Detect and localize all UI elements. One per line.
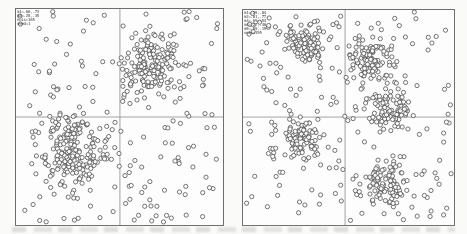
scatter-point (300, 150, 304, 154)
scatter-point (389, 184, 393, 188)
scatter-point (128, 82, 132, 86)
scatter-point (32, 62, 36, 66)
scatter-point (298, 115, 302, 119)
scatter-point (147, 72, 151, 76)
scatter-point (385, 81, 389, 85)
scatter-point (113, 146, 117, 150)
scatter-point (201, 191, 205, 195)
figure-canvas: m1=.66,.73m2=.28,.35nois=165seed=1 m1=.2… (0, 0, 467, 234)
scatter-point (171, 55, 175, 59)
scatter-point (72, 132, 76, 136)
scatter-point (335, 21, 339, 25)
scatter-point (33, 143, 37, 147)
scatter-point (128, 141, 132, 145)
scatter-point (113, 120, 117, 124)
scatter-point (371, 74, 375, 78)
scatter-point (258, 64, 262, 68)
scatter-point (284, 33, 288, 37)
scatter-point (302, 157, 306, 161)
scatter-point (139, 38, 143, 42)
scatter-point (331, 95, 335, 99)
scatter-point (129, 75, 133, 79)
scatter-point (215, 26, 219, 30)
scatter-point (383, 105, 387, 109)
scatter-point (58, 113, 62, 117)
scatter-point (87, 172, 91, 176)
scatter-point (153, 33, 157, 37)
scatter-point (393, 185, 397, 189)
scatter-point (379, 28, 383, 32)
scatter-point (245, 201, 249, 205)
scatter-point (62, 142, 66, 146)
scatter-point (172, 49, 176, 53)
scatter-point (372, 145, 376, 149)
scatter-point (210, 113, 214, 117)
scatter-point (351, 55, 355, 59)
scatter-point (305, 30, 309, 34)
scatter-point (289, 30, 293, 34)
scatter-point (33, 129, 37, 133)
scatter-point (177, 162, 181, 166)
scatter-point (142, 135, 146, 139)
scatter-point (295, 142, 299, 146)
scatter-point (435, 176, 439, 180)
scatter-point (404, 80, 408, 84)
scatter-point (103, 139, 107, 143)
scatter-point (388, 109, 392, 113)
scatter-point (68, 42, 72, 46)
scatter-point (274, 101, 278, 105)
scatter-point (266, 151, 270, 155)
scatter-point (124, 201, 128, 205)
scatter-point (433, 171, 437, 175)
scatter-point (49, 135, 53, 139)
scatter-point (155, 204, 159, 208)
scatter-point (141, 79, 145, 83)
scatter-point (371, 202, 375, 206)
scatter-point (389, 179, 393, 183)
scatter-point (357, 190, 361, 194)
scatter-point (410, 42, 414, 46)
scatter-point (71, 154, 75, 158)
scatter-point (38, 111, 42, 115)
scatter-point (293, 129, 297, 133)
scatter-point (391, 117, 395, 121)
scatter-point (415, 84, 419, 88)
scatter-point (384, 87, 388, 91)
scatter-point (380, 168, 384, 172)
scatter-point (303, 203, 307, 207)
scatter-point (18, 14, 22, 18)
scatter-point (429, 209, 433, 213)
scatter-point (396, 87, 400, 91)
scatter-point (113, 185, 117, 189)
scatter-point (305, 53, 309, 57)
scatter-point (178, 87, 182, 91)
scatter-point (377, 115, 381, 119)
scatter-point (74, 171, 78, 175)
scatter-point (288, 137, 292, 141)
scatter-point (70, 127, 74, 131)
scatter-point (316, 41, 320, 45)
scatter-point (358, 182, 362, 186)
left-plot-svg (15, 8, 224, 226)
scatter-point (157, 92, 161, 96)
scatter-point (376, 21, 380, 25)
scatter-point (30, 162, 34, 166)
scatter-point (59, 136, 63, 140)
scatter-point (307, 57, 311, 61)
scatter-point (389, 74, 393, 78)
scatter-point (299, 132, 303, 136)
scatter-point (382, 212, 386, 216)
scatter-point (417, 132, 421, 136)
scatter-point (84, 18, 88, 22)
scatter-point (330, 66, 334, 70)
scatter-point (197, 69, 201, 73)
scatter-point (130, 36, 134, 40)
scatter-point (172, 85, 176, 89)
scatter-point (393, 16, 397, 20)
scatter-point (446, 112, 450, 116)
scatter-point (126, 51, 130, 55)
scatter-point (294, 93, 298, 97)
scatter-point (18, 22, 22, 26)
scatter-point (212, 125, 216, 129)
scatter-point (270, 132, 274, 136)
